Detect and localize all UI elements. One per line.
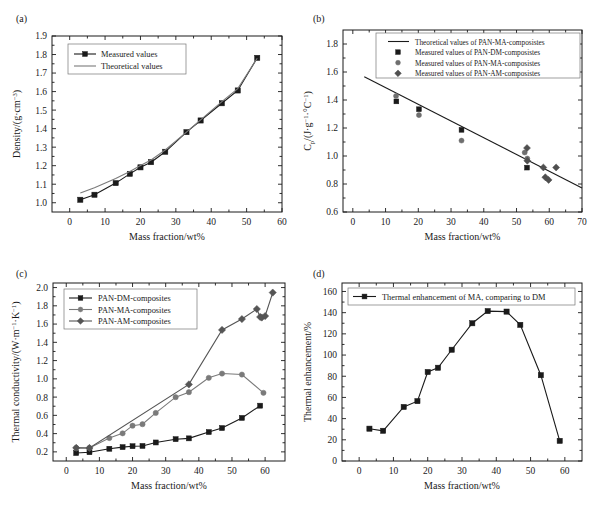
y-tick-label: 1.6 [35,87,47,97]
data-point-square [186,436,191,441]
panel-b-label: (b) [313,13,325,25]
y-tick-label: 80 [328,372,338,382]
legend-label-1: PAN-MA-composites [98,306,171,315]
x-axis-title: Mass fraction/wt% [131,480,207,491]
data-point-diamond [269,289,276,296]
y-tick-label: 120 [323,329,338,339]
y-tick-label: 1.2 [36,356,48,366]
y-axis-title: Thermal enhancement/% [302,322,313,422]
x-axis-title: Mass fraction/wt% [129,231,205,242]
x-tick-label: 50 [227,466,237,476]
y-tick-label: 1.4 [326,95,338,105]
x-tick-label: 10 [95,466,105,476]
data-point-square [485,308,490,313]
data-point-square [417,107,422,112]
x-tick-label: 30 [446,217,456,227]
y-tick-label: 1.0 [326,151,338,161]
data-point-square [130,444,135,449]
y-tick-label: 0 [332,456,337,466]
panel-a-svg: (a) 01020304050601.01.11.21.31.41.51.61.… [0,0,297,261]
legend-marker-square [396,50,401,55]
y-tick-label: 0.6 [36,411,48,421]
svg-text:Density/(g·cm−3): Density/(g·cm−3) [11,90,23,158]
data-point-square [435,365,440,370]
x-tick-label: 40 [194,466,204,476]
x-tick-label: 20 [414,217,424,227]
data-point-square [557,438,562,443]
data-point-circle [219,371,224,376]
series-line [369,311,559,441]
y-tick-label: 160 [323,287,338,297]
y-tick-label: 1.8 [35,50,47,60]
data-point-square [425,369,430,374]
y-tick-label: 1.3 [35,143,47,153]
legend-label-2: Measured values of PAN-MA-composistes [415,59,540,68]
data-point-square [220,426,225,431]
legend-marker-enhancement [362,294,367,299]
panel-c-thermal-conductivity: (c) 01020304050600.20.40.60.81.01.21.41.… [0,261,297,522]
x-tick-label: 60 [277,217,287,227]
x-tick-label: 50 [242,217,252,227]
x-tick-label: 40 [479,217,489,227]
legend-label-1: Measured values of PAN-DM-composistes [415,48,540,57]
legend-label-theoretical: Theoretical values [101,62,163,71]
data-point-square [504,309,509,314]
y-tick-label: 0.2 [36,447,48,457]
data-point-square [140,443,145,448]
data-point-square [113,180,118,185]
y-tick-label: 100 [323,350,338,360]
y-tick-label: 1.0 [36,374,48,384]
y-tick-label: 1.6 [326,67,338,77]
x-tick-label: 10 [389,466,399,476]
y-tick-label: 20 [328,435,338,445]
data-point-circle [173,395,178,400]
data-point-diamond [238,315,245,322]
y-tick-label: 60 [328,393,338,403]
y-tick-label: 1.8 [36,301,48,311]
data-point-square [470,321,475,326]
data-point-diamond [218,326,225,333]
data-point-square [258,403,263,408]
legend-marker-circle [396,60,401,65]
y-tick-label: 1.2 [326,123,338,133]
x-tick-label: 60 [560,466,570,476]
x-tick-label: 10 [381,217,391,227]
x-tick-label: 0 [350,217,355,227]
data-point-square [239,415,244,420]
data-point-square [107,446,112,451]
y-tick-label: 0.6 [326,207,338,217]
svg-text:Cp/(J·g−1·°C−1): Cp/(J·g−1·°C−1) [302,91,315,151]
x-tick-label: 60 [260,466,270,476]
y-tick-label: 40 [328,414,338,424]
panel-c-label: (c) [16,268,27,280]
y-tick-label: 1.6 [36,319,48,329]
x-tick-label: 30 [457,466,467,476]
panel-a-label: (a) [16,13,27,25]
data-point-square [518,322,523,327]
x-tick-label: 40 [206,217,216,227]
data-point-diamond [253,305,260,312]
data-point-square [92,192,97,197]
series-line [80,58,257,193]
y-tick-label: 1.0 [35,198,47,208]
y-tick-label: 1.8 [326,39,338,49]
y-tick-label: 0.8 [36,393,48,403]
legend-marker-measured [83,52,88,57]
data-point-circle [130,423,135,428]
data-point-square [401,404,406,409]
data-point-circle [239,372,244,377]
x-tick-label: 0 [67,217,72,227]
series-line [76,374,263,448]
legend-label-2: PAN-AM-composites [98,317,171,326]
svg-text:Thermal conductivity/(W·m−1·K−: Thermal conductivity/(W·m−1·K−1) [10,302,22,443]
data-point-square [538,373,543,378]
y-axis-title: Cp/(J·g−1·°C−1) [302,91,315,151]
data-point-square [255,55,260,60]
data-point-circle [153,410,158,415]
legend-label-3: Measured values of PAN-AM-composistes [415,69,540,78]
panel-c-svg: (c) 01020304050600.20.40.60.81.01.21.41.… [0,261,297,522]
x-tick-label: 0 [64,466,69,476]
data-point-square [394,99,399,104]
x-tick-label: 20 [136,217,146,227]
series-line [76,406,260,453]
